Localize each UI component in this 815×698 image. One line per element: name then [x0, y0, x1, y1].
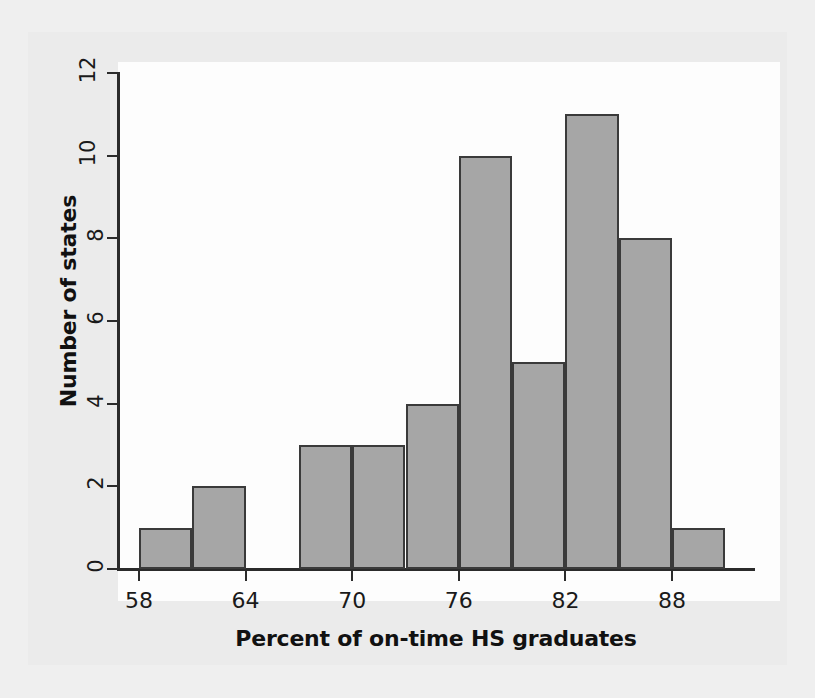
bars-layer [28, 32, 787, 665]
histogram-bar [139, 528, 192, 569]
chart-axes: 024681012 586470768288 Percent of on-tim… [28, 32, 787, 665]
figure-panel: 024681012 586470768288 Percent of on-tim… [28, 32, 787, 665]
histogram-bar [352, 445, 405, 569]
histogram-bar [672, 528, 725, 569]
histogram-bar [192, 486, 245, 569]
histogram-bar [512, 362, 565, 569]
histogram-bar [619, 238, 672, 569]
histogram-bar [406, 404, 459, 569]
y-axis-title: Number of states [56, 195, 81, 407]
histogram-bar [459, 156, 512, 569]
histogram-bar [565, 114, 618, 569]
y-axis-title-wrapper: Number of states [48, 51, 88, 551]
histogram-bar [299, 445, 352, 569]
x-axis-title: Percent of on-time HS graduates [117, 626, 755, 651]
